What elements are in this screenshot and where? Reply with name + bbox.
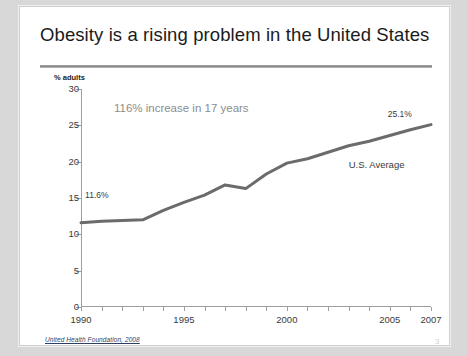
x-tick bbox=[349, 307, 350, 311]
x-tick-label: 2000 bbox=[276, 314, 297, 325]
source-citation-link[interactable]: United Health Foundation, 2008 bbox=[45, 336, 140, 343]
x-tick bbox=[205, 307, 206, 311]
x-tick bbox=[143, 307, 144, 311]
x-tick-label: 2007 bbox=[420, 314, 441, 325]
y-tick-label: 30 bbox=[39, 83, 79, 94]
x-tick bbox=[163, 307, 164, 311]
x-tick bbox=[122, 307, 123, 311]
y-axis-label: % adults bbox=[54, 73, 85, 82]
annotation-end-value: 25.1% bbox=[388, 109, 412, 119]
y-tick-label: 0 bbox=[39, 301, 79, 312]
series-line-us-average bbox=[81, 89, 431, 307]
x-tick bbox=[287, 307, 288, 311]
y-tick-label: 10 bbox=[39, 228, 79, 239]
x-tick bbox=[184, 307, 185, 311]
x-tick bbox=[431, 307, 432, 311]
x-tick-label: 1990 bbox=[70, 314, 91, 325]
x-tick bbox=[328, 307, 329, 311]
page-title: Obesity is a rising problem in the Unite… bbox=[40, 24, 440, 46]
x-tick-label: 2005 bbox=[379, 314, 400, 325]
slide-card: Obesity is a rising problem in the Unite… bbox=[19, 6, 450, 346]
annotation-series-label: U.S. Average bbox=[349, 159, 405, 170]
x-tick bbox=[225, 307, 226, 311]
annotation-start-value: 11.6% bbox=[85, 190, 108, 200]
y-tick-label: 15 bbox=[39, 192, 79, 203]
y-tick-label: 5 bbox=[39, 265, 79, 276]
x-tick bbox=[266, 307, 267, 311]
y-tick-label: 20 bbox=[39, 156, 79, 167]
y-tick-label: 25 bbox=[39, 119, 79, 130]
slide-page: Obesity is a rising problem in the Unite… bbox=[0, 0, 467, 356]
x-tick bbox=[369, 307, 370, 311]
line-chart: % adults 051015202530 199019952000200520… bbox=[34, 73, 439, 323]
page-number: 3 bbox=[435, 337, 439, 346]
plot-area: 051015202530 19901995200020052007 116% i… bbox=[81, 89, 431, 307]
x-tick bbox=[246, 307, 247, 311]
annotation-increase-callout: 116% increase in 17 years bbox=[114, 102, 249, 114]
x-tick-label: 1995 bbox=[173, 314, 194, 325]
x-tick bbox=[81, 307, 82, 311]
title-divider bbox=[40, 65, 432, 68]
x-tick bbox=[307, 307, 308, 311]
x-tick bbox=[410, 307, 411, 311]
x-tick bbox=[390, 307, 391, 311]
x-tick bbox=[102, 307, 103, 311]
